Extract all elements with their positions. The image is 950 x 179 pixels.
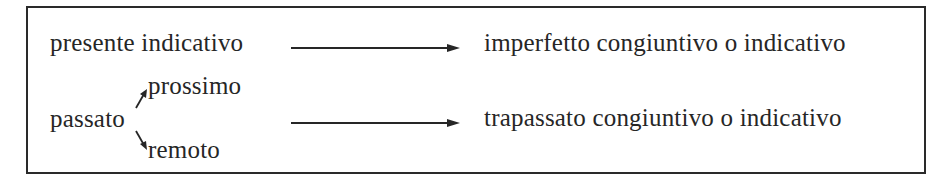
source-presente-indicativo: presente indicativo <box>50 30 243 55</box>
arrow-right-icon <box>290 42 462 54</box>
target-trapassato: trapassato congiuntivo o indicativo <box>484 105 842 130</box>
branch-remoto: remoto <box>148 137 220 162</box>
arrow-right-icon <box>290 117 462 129</box>
target-imperfetto: imperfetto congiuntivo o indicativo <box>484 30 846 55</box>
source-passato: passato <box>50 106 125 131</box>
branch-prossimo: prossimo <box>148 73 241 98</box>
